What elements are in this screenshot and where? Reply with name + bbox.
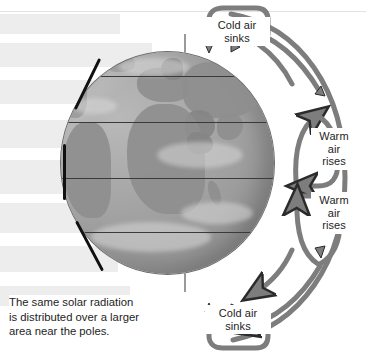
surface-flow-south [256,250,292,292]
convection-arrow-paths [209,8,345,348]
label-warm-air-rises-upper: Warm air rises [311,128,357,170]
label-cold-air-sinks-bottom: Cold air sinks [205,305,271,334]
solar-radiation-caption: The same solar radiation is distributed … [9,295,194,339]
outer-convection-arc [231,14,345,340]
label-cold-air-sinks-top: Cold air sinks [204,17,270,46]
arrowhead-right-lower [315,246,325,258]
label-warm-air-rises-lower: Warm air rises [311,192,357,234]
climate-convection-figure: Cold air sinks Warm air rises Warm air r… [0,0,366,356]
